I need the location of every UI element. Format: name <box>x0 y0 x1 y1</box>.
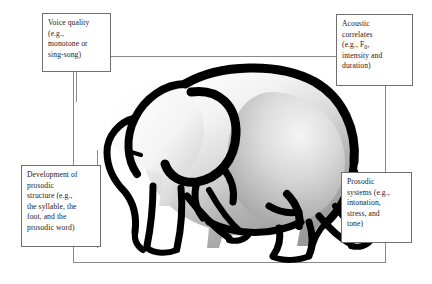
callout-prosodic-systems-line-4: stress, and <box>347 209 406 220</box>
callout-acoustic-correlates[interactable]: Acoustic correlates (e.g., F0, intensity… <box>336 14 413 86</box>
callout-prosodic-systems-line-3: intonation, <box>347 198 406 209</box>
callout-voice-quality-line-3: monotone or <box>48 39 105 50</box>
callout-voice-quality[interactable]: Voice quality (e.g., monotone or sing-so… <box>42 13 111 72</box>
callout-prosodic-systems[interactable]: Prosodic systems (e.g., intonation, stre… <box>341 172 412 243</box>
callout-prosodic-development-line-5: foot, and the <box>27 212 95 223</box>
callout-prosodic-development-line-1: Development of <box>27 170 95 181</box>
callout-voice-quality-line-4: sing-song) <box>48 50 105 61</box>
callout-acoustic-correlates-line-4: intensity and <box>342 51 407 62</box>
callout-voice-quality-line-2: (e.g., <box>48 29 105 40</box>
callout-prosodic-development-line-2: prosodic <box>27 181 95 192</box>
callout-prosodic-systems-line-2: systems (e.g., <box>347 188 406 199</box>
callout-prosodic-development-line-3: structure (e.g., <box>27 191 95 202</box>
callout-acoustic-correlates-f0-subscript: 0 <box>364 44 367 50</box>
callout-prosodic-development[interactable]: Development of prosodic structure (e.g.,… <box>21 165 101 247</box>
callout-prosodic-systems-line-1: Prosodic <box>347 177 406 188</box>
callout-acoustic-correlates-line-3: (e.g., F0, <box>342 40 407 51</box>
callout-acoustic-correlates-line-2: correlates <box>342 30 407 41</box>
callout-voice-quality-line-1: Voice quality <box>48 18 105 29</box>
callout-prosodic-systems-line-5: tone) <box>347 219 406 230</box>
callout-acoustic-correlates-f0-text: (e.g., F <box>342 40 364 49</box>
elephant-illustration <box>73 56 386 263</box>
callout-acoustic-correlates-line-5: duration) <box>342 61 407 72</box>
callout-prosodic-development-line-6: prosodic word) <box>27 223 95 234</box>
callout-prosodic-development-line-4: the syllable, the <box>27 202 95 213</box>
callout-acoustic-correlates-line-1: Acoustic <box>342 19 407 30</box>
figure-canvas: Voice quality (e.g., monotone or sing-so… <box>0 0 432 284</box>
